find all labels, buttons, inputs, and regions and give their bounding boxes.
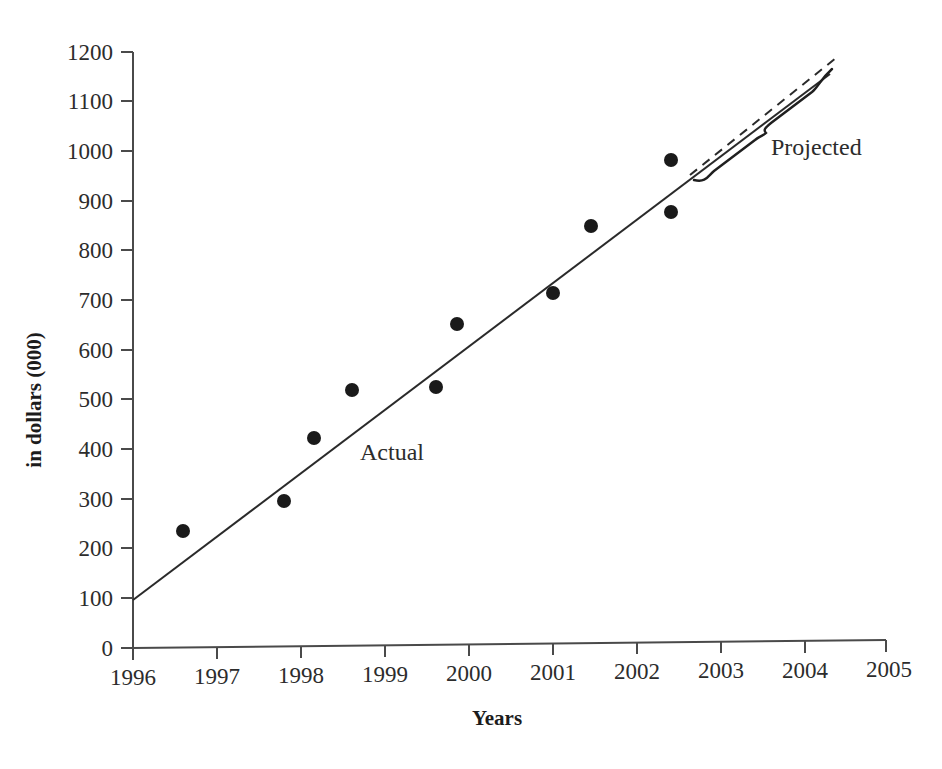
line-scatter-chart: 1200 1100 1000 900 800 700 600 500 400 3… xyxy=(0,0,942,769)
data-point xyxy=(176,524,190,538)
y-tick-label: 600 xyxy=(79,338,114,363)
data-point xyxy=(345,383,359,397)
x-tick-label: 1999 xyxy=(362,662,408,687)
x-tick-label: 2000 xyxy=(446,661,492,686)
chart-container: 1200 1100 1000 900 800 700 600 500 400 3… xyxy=(0,0,942,769)
x-tick-label: 2001 xyxy=(530,660,576,685)
y-tick-label: 400 xyxy=(79,437,114,462)
y-tick-label: 1000 xyxy=(67,139,113,164)
data-point xyxy=(307,431,321,445)
y-tick-label: 800 xyxy=(79,238,114,263)
data-points xyxy=(176,153,678,538)
y-tick-label: 700 xyxy=(79,288,114,313)
data-point xyxy=(546,286,560,300)
y-tick-label: 1100 xyxy=(68,89,113,114)
y-axis-title: in dollars (000) xyxy=(22,332,46,467)
data-point xyxy=(664,205,678,219)
x-tick-label: 2005 xyxy=(866,657,912,682)
x-tick-labels: 1996 1997 1998 1999 2000 2001 2002 2003 … xyxy=(110,657,912,690)
x-axis-title: Years xyxy=(472,706,522,730)
y-tick-label: 200 xyxy=(79,536,114,561)
y-axis-ticks xyxy=(121,52,133,648)
data-point xyxy=(664,153,678,167)
y-tick-label: 1200 xyxy=(67,40,113,65)
y-tick-label: 900 xyxy=(79,189,114,214)
y-tick-label: 300 xyxy=(79,487,114,512)
actual-label: Actual xyxy=(360,439,424,465)
y-tick-label: 100 xyxy=(79,586,114,611)
x-tick-label: 1997 xyxy=(194,664,240,689)
trend-line-actual xyxy=(133,74,830,600)
x-tick-label: 1998 xyxy=(278,663,324,688)
x-tick-label: 2004 xyxy=(782,658,829,683)
data-point xyxy=(429,380,443,394)
data-point xyxy=(450,317,464,331)
y-tick-label: 0 xyxy=(102,636,114,661)
y-tick-label: 500 xyxy=(79,387,114,412)
data-point xyxy=(584,219,598,233)
x-tick-label: 2003 xyxy=(698,658,744,683)
y-tick-labels: 1200 1100 1000 900 800 700 600 500 400 3… xyxy=(67,40,113,661)
x-axis-line xyxy=(133,640,886,648)
x-tick-label: 1996 xyxy=(110,665,156,690)
data-point xyxy=(277,494,291,508)
projected-label: Projected xyxy=(771,134,862,160)
x-tick-label: 2002 xyxy=(614,659,660,684)
